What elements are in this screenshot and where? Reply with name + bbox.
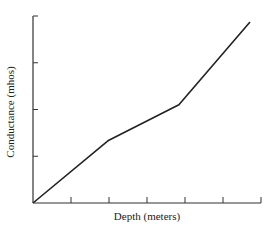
y-axis-label: Conductance (mhos) xyxy=(4,66,16,157)
data-line xyxy=(33,22,250,203)
plot-area xyxy=(0,0,273,232)
x-axis-label: Depth (meters) xyxy=(114,210,180,222)
conductance-depth-chart: Conductance (mhos) Depth (meters) xyxy=(0,0,273,232)
